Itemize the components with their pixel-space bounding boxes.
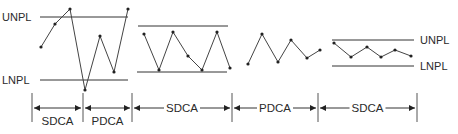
initial-unstable-line xyxy=(41,9,128,90)
new-standard-line xyxy=(334,43,411,57)
data-point xyxy=(276,60,279,63)
data-point xyxy=(349,55,352,58)
process-data-series xyxy=(39,7,412,91)
data-point xyxy=(228,66,231,69)
arrowhead-right-icon xyxy=(409,105,415,111)
lnpl-label-right: LNPL xyxy=(420,60,448,72)
data-point xyxy=(365,45,368,48)
data-point xyxy=(126,7,129,10)
data-point xyxy=(305,56,308,59)
data-point xyxy=(157,68,160,71)
lnpl-label-left: LNPL xyxy=(2,74,30,86)
arrowhead-left-icon xyxy=(320,105,326,111)
data-point xyxy=(53,22,56,25)
phase-label-pdca: PDCA xyxy=(259,102,291,114)
data-point xyxy=(200,68,203,71)
arrowhead-left-icon xyxy=(134,105,140,111)
standardized-line xyxy=(144,32,230,70)
data-point xyxy=(409,54,412,57)
arrowhead-right-icon xyxy=(224,105,230,111)
data-point xyxy=(112,70,115,73)
data-point xyxy=(98,34,101,37)
sdca-pdca-diagram: SDCAPDCASDCAPDCASDCA UNPL LNPL UNPL LNPL xyxy=(0,0,458,134)
data-point xyxy=(186,54,189,57)
arrowhead-left-icon xyxy=(85,105,91,111)
data-point xyxy=(171,30,174,33)
data-point xyxy=(260,32,263,35)
arrowhead-right-icon xyxy=(310,105,316,111)
unpl-label-left: UNPL xyxy=(2,11,31,23)
improvement-line xyxy=(248,34,320,64)
data-point xyxy=(379,55,382,58)
phase-label-sdca: SDCA xyxy=(42,115,74,127)
arrowhead-left-icon xyxy=(234,105,240,111)
data-point xyxy=(215,30,218,33)
data-point xyxy=(393,48,396,51)
data-point xyxy=(68,7,71,10)
arrowhead-right-icon xyxy=(124,105,130,111)
phase-label-sdca: SDCA xyxy=(352,102,384,114)
phase-label-pdca: PDCA xyxy=(92,115,124,127)
phase-timeline: SDCAPDCASDCAPDCASDCA xyxy=(32,93,417,127)
unpl-label-right: UNPL xyxy=(420,34,449,46)
data-point xyxy=(332,41,335,44)
arrowhead-right-icon xyxy=(75,105,81,111)
data-point xyxy=(289,38,292,41)
data-point xyxy=(83,88,86,91)
data-point xyxy=(246,62,249,65)
arrowhead-left-icon xyxy=(34,105,40,111)
data-point xyxy=(39,45,42,48)
phase-label-sdca: SDCA xyxy=(166,102,198,114)
data-point xyxy=(142,32,145,35)
data-point xyxy=(318,48,321,51)
